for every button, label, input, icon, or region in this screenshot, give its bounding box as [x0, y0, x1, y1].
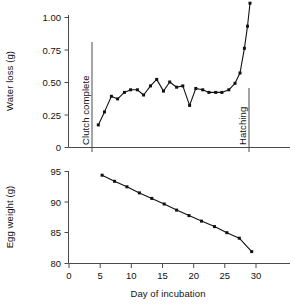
egg-weight-xtick-5: 5	[98, 270, 103, 281]
water-loss-ytick-0.75: 0.75	[43, 45, 62, 56]
water-loss-ytick-0.25: 0.25	[43, 110, 62, 121]
water-loss-series	[97, 2, 252, 127]
egg-weight-series	[101, 174, 254, 253]
egg-weight-polyline	[102, 175, 252, 251]
water-loss-ytick-0.50: 0.50	[43, 77, 62, 88]
egg-weight-ytick-95: 95	[50, 166, 61, 177]
egg-weight-xtick-30: 30	[251, 270, 262, 281]
egg-weight-xtick-10: 10	[126, 270, 137, 281]
water-loss-ytick-0: 0	[56, 142, 61, 153]
clutch-complete-label: Clutch complete	[80, 75, 91, 145]
water-loss-y-axis-label: Water loss (g)	[4, 51, 15, 111]
x-axis-label: Day of incubation	[130, 288, 205, 299]
water-loss-ytick-1.00: 1.00	[43, 12, 62, 23]
egg-weight-y-axis-label: Egg weight (g)	[4, 186, 15, 249]
egg-weight-xtick-25: 25	[220, 270, 231, 281]
panel-egg-weight: 95 90 85 80 Egg weight (g) 0 5 10 15 20 …	[4, 166, 290, 299]
egg-weight-ytick-80: 80	[50, 258, 61, 269]
egg-weight-ytick-90: 90	[50, 197, 61, 208]
egg-weight-xtick-15: 15	[157, 270, 168, 281]
figure-container: 1.00 0.75 0.50 0.25 0 Water loss (g) Clu…	[0, 0, 295, 306]
hatching-label: Hatching	[237, 107, 248, 145]
egg-weight-xtick-0: 0	[66, 270, 71, 281]
water-loss-polyline	[98, 3, 250, 125]
water-loss-y-ticks	[65, 18, 69, 148]
two-panel-chart: 1.00 0.75 0.50 0.25 0 Water loss (g) Clu…	[0, 0, 295, 306]
egg-weight-y-ticks	[65, 172, 69, 264]
egg-weight-xtick-20: 20	[188, 270, 199, 281]
egg-weight-x-ticks	[69, 264, 256, 269]
panel-water-loss: 1.00 0.75 0.50 0.25 0 Water loss (g) Clu…	[4, 2, 290, 153]
egg-weight-ytick-85: 85	[50, 227, 61, 238]
water-loss-markers	[97, 2, 252, 127]
